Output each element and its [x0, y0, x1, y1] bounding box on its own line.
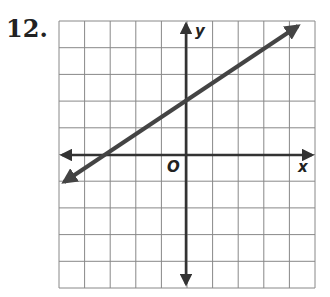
origin-label: O: [167, 158, 180, 176]
x-axis-label: x: [297, 158, 309, 176]
graphed-line: [64, 26, 298, 182]
coordinate-graph: y x O: [0, 0, 330, 297]
y-axis-label: y: [195, 22, 206, 40]
